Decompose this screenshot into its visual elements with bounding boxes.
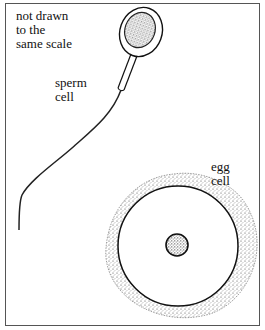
sperm-label-line: cell [55,90,87,104]
scale-note-line: same scale [16,37,72,51]
sperm-label-line: sperm [55,76,87,90]
scale-note-line: not drawn [16,9,72,23]
sperm-tail [19,90,121,230]
egg-nucleus [166,234,188,256]
egg-cell [106,173,257,317]
scale-note-line: to the [16,23,72,37]
egg-cell-label: egg cell [211,160,230,188]
scale-note: not drawn to the same scale [16,9,72,51]
sperm-head [113,1,170,62]
egg-label-line: egg [211,160,230,174]
egg-label-line: cell [211,174,230,188]
sperm-cell-label: sperm cell [55,76,87,104]
sperm-midpiece [118,54,137,91]
